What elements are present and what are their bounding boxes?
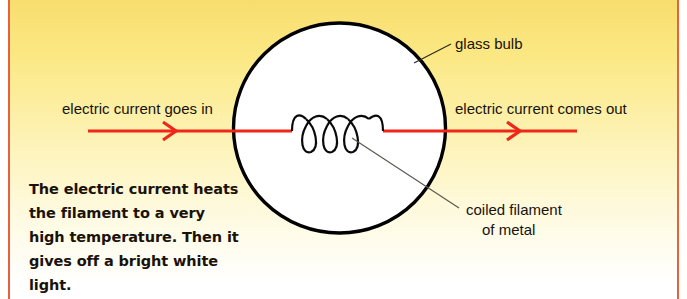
label-coiled-filament: coiled filament of metal [466, 200, 596, 241]
glass-bulb-leader-line [414, 44, 451, 63]
label-glass-bulb: glass bulb [455, 36, 523, 52]
explanation-paragraph: The electric current heats the filament … [29, 178, 244, 298]
label-coiled-filament-line2: of metal [466, 220, 596, 240]
label-coiled-filament-line1: coiled filament [466, 201, 562, 218]
diagram-canvas: electric current goes in electric curren… [0, 0, 687, 299]
label-current-in: electric current goes in [62, 101, 213, 117]
label-current-out: electric current comes out [455, 101, 627, 117]
glass-bulb-shape [234, 23, 446, 233]
